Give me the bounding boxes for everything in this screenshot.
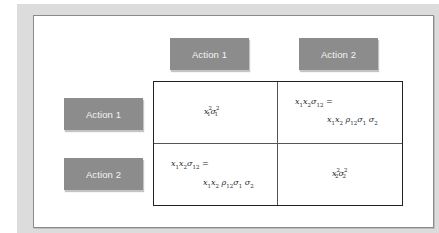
row-header-action-2: Action 2 xyxy=(64,158,143,190)
diagram-stage: Action 1 Action 2 Action 1 Action 2 x21σ… xyxy=(0,0,439,233)
row-header-action-1: Action 1 xyxy=(64,98,143,130)
cell-r2c1-formula-line2: x1x2 ρ12σ1 σ2 xyxy=(203,178,254,189)
cell-r1c1-formula: x21σ21 xyxy=(204,105,218,117)
column-header-action-2: Action 2 xyxy=(299,38,378,70)
row-divider xyxy=(154,143,402,144)
cell-r2c2-formula: x22σ22 xyxy=(332,167,346,179)
row-header-label: Action 1 xyxy=(86,109,121,120)
column-header-label: Action 1 xyxy=(192,49,227,60)
cell-r1c2-formula-line1: x1x2σ12 = xyxy=(295,97,333,108)
cell-r2c1-formula-line1: x1x2σ12 = xyxy=(171,159,209,170)
column-header-action-1: Action 1 xyxy=(170,38,249,70)
cell-r1c2-formula-line2: x1x2 ρ12σ1 σ2 xyxy=(327,115,378,126)
column-header-label: Action 2 xyxy=(321,49,356,60)
covariance-matrix: x21σ21 x1x2σ12 = x1x2 ρ12σ1 σ2 x1x2σ12 =… xyxy=(153,81,403,206)
row-header-label: Action 2 xyxy=(86,169,121,180)
